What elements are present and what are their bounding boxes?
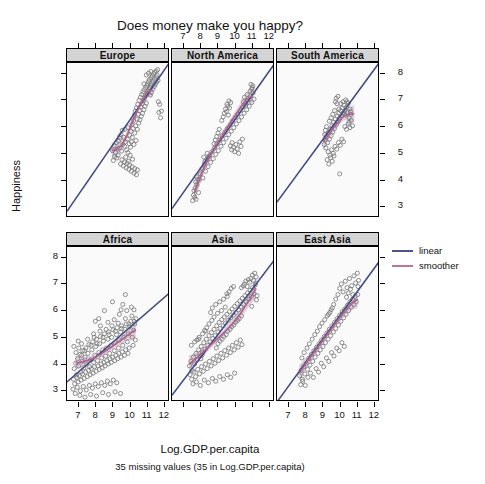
- axis-tick-label: 5: [38, 330, 58, 341]
- panel-europe: [66, 62, 169, 217]
- axis-tick-mark: [269, 402, 270, 407]
- axis-tick-mark: [380, 283, 385, 284]
- axis-tick-label: 3: [383, 199, 403, 210]
- axis-tick-label: 7: [38, 276, 58, 287]
- axis-tick-mark: [380, 310, 385, 311]
- linear-fit-line: [67, 292, 169, 382]
- axis-tick-mark: [380, 390, 385, 391]
- axis-tick-label: 8: [383, 66, 403, 77]
- panel-strip-africa: Africa: [66, 232, 169, 246]
- axis-tick-mark: [252, 402, 253, 407]
- axis-tick-label: 5: [383, 146, 403, 157]
- axis-tick-label: 4: [383, 173, 403, 184]
- x-axis-label: Log.GDP.per.capita: [0, 443, 420, 455]
- axis-tick-label: 8: [38, 250, 58, 261]
- linear-fit-line: [172, 259, 274, 395]
- panel-asia: [171, 246, 274, 401]
- axis-tick-mark: [95, 402, 96, 407]
- axis-tick-label: 6: [38, 303, 58, 314]
- data-points: [187, 271, 259, 387]
- panel-africa: [66, 246, 169, 401]
- legend-swatch-smoother: [392, 265, 413, 267]
- data-points: [71, 293, 138, 400]
- axis-tick-mark: [305, 402, 306, 407]
- legend: linear smoother: [392, 243, 459, 273]
- axis-tick-mark: [235, 402, 236, 407]
- axis-tick-mark: [217, 402, 218, 407]
- axis-tick-mark: [200, 402, 201, 407]
- axis-tick-label: 12: [259, 30, 279, 41]
- axis-tick-mark: [322, 402, 323, 407]
- axis-tick-label: 6: [383, 119, 403, 130]
- axis-tick-mark: [112, 402, 113, 407]
- panel-strip-south-america: South America: [276, 48, 379, 62]
- legend-label-linear: linear: [419, 245, 442, 256]
- axis-tick-mark: [380, 364, 385, 365]
- axis-tick-mark: [164, 402, 165, 407]
- legend-item-linear: linear: [392, 243, 459, 258]
- axis-tick-label: 7: [383, 92, 403, 103]
- axis-tick-mark: [78, 402, 79, 407]
- missing-values-note: 35 missing values (35 in Log.GDP.per.cap…: [0, 461, 420, 472]
- axis-tick-mark: [288, 402, 289, 407]
- panel-strip-asia: Asia: [171, 232, 274, 246]
- axis-tick-mark: [357, 402, 358, 407]
- panel-east-asia: [276, 246, 379, 401]
- legend-label-smoother: smoother: [419, 260, 459, 271]
- panel-strip-east-asia: East Asia: [276, 232, 379, 246]
- legend-item-smoother: smoother: [392, 258, 459, 273]
- trellis-figure: Does money make you happy? Happiness Log…: [0, 0, 485, 484]
- axis-tick-mark: [340, 402, 341, 407]
- data-points: [322, 94, 354, 176]
- axis-tick-mark: [183, 402, 184, 407]
- axis-tick-label: 12: [154, 409, 174, 420]
- axis-tick-mark: [374, 402, 375, 407]
- axis-tick-mark: [380, 257, 385, 258]
- axis-tick-label: 4: [38, 357, 58, 368]
- linear-fit-line: [277, 260, 379, 401]
- panel-north-america: [171, 62, 274, 217]
- axis-tick-label: 12: [364, 409, 384, 420]
- axis-tick-label: 3: [38, 383, 58, 394]
- axis-tick-mark: [130, 402, 131, 407]
- y-axis-label: Happiness: [10, 96, 22, 276]
- linear-fit-line: [277, 63, 379, 202]
- axis-tick-mark: [147, 402, 148, 407]
- panel-strip-europe: Europe: [66, 48, 169, 62]
- panel-south-america: [276, 62, 379, 217]
- linear-fit-line: [67, 63, 169, 211]
- axis-tick-mark: [380, 337, 385, 338]
- legend-swatch-linear: [392, 250, 413, 252]
- panel-strip-north-america: North America: [171, 48, 274, 62]
